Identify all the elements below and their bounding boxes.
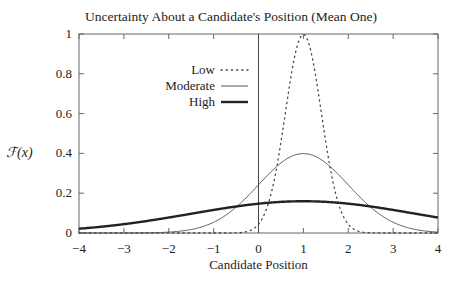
x-tick-label: 4 [423,242,453,255]
chart-title: Uncertainty About a Candidate's Position… [0,10,462,24]
y-tick-label: 0.8 [30,67,72,80]
y-tick-label: 1 [30,27,72,40]
x-tick-label: −3 [109,242,139,255]
x-tick-label: −2 [154,242,184,255]
x-tick-label: 1 [288,242,318,255]
y-tick-label: 0.6 [30,107,72,120]
x-tick-label: 0 [244,242,274,255]
y-tick-label: 0 [30,226,72,239]
x-tick-label: 3 [378,242,408,255]
legend-swatches [221,70,248,102]
x-axis-label: Candidate Position [79,258,438,271]
x-tick-label: −1 [199,242,229,255]
y-axis-label: ℱ(x) [6,146,33,160]
x-tick-label: 2 [333,242,363,255]
x-tick-label: −4 [64,242,94,255]
legend-label-high: High [115,95,215,108]
legend-label-moderate: Moderate [115,79,215,92]
legend-label-low: Low [115,63,215,76]
y-tick-label: 0.4 [30,146,72,159]
y-tick-label: 0.2 [30,186,72,199]
